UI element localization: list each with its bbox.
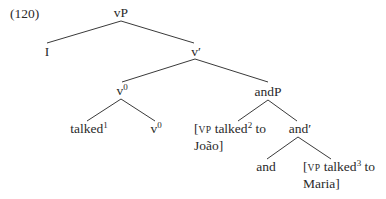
edge-vP-I [47, 21, 121, 43]
edge-andP-andbar [268, 100, 297, 121]
edge-vP-vbar [121, 21, 194, 43]
node-label: v [116, 83, 123, 98]
node-line-1: [VP talked3 to [303, 159, 375, 176]
node-vp-joao: [VP talked2 to João] [194, 121, 266, 153]
edge-vbar-andP [195, 59, 268, 82]
node-label: talked [70, 121, 103, 136]
node-vP: vP [114, 5, 128, 20]
node-and-bar: and′ [289, 121, 311, 136]
edge-andbar-vpmaria [298, 137, 331, 159]
node-vp-maria: [VP talked3 to Maria] [303, 159, 375, 191]
category-label: VP [199, 125, 212, 135]
category-label: VP [308, 163, 321, 173]
edge-v0-talked1 [87, 99, 121, 121]
node-talked1: talked1 [70, 121, 108, 136]
superscript: 0 [157, 120, 162, 130]
node-v-bar: v′ [191, 44, 201, 59]
example-number: (120) [10, 6, 39, 21]
node-line-2: João] [194, 138, 266, 153]
node-andP: andP [255, 84, 282, 99]
edge-andbar-and [267, 137, 298, 159]
edge-andP-vpjoao [238, 100, 268, 121]
node-I: I [45, 44, 50, 59]
superscript: 1 [103, 120, 108, 130]
edge-v0-v0 [121, 99, 155, 121]
node-and-head: and [256, 159, 276, 174]
node-v0-lower: v0 [150, 121, 161, 136]
superscript: 0 [123, 82, 128, 92]
node-line-1: [VP talked2 to [194, 121, 266, 138]
node-v0-upper: v0 [116, 83, 127, 98]
node-line-2: Maria] [303, 176, 375, 191]
edge-vbar-v0 [122, 59, 195, 82]
node-label: v [150, 121, 157, 136]
